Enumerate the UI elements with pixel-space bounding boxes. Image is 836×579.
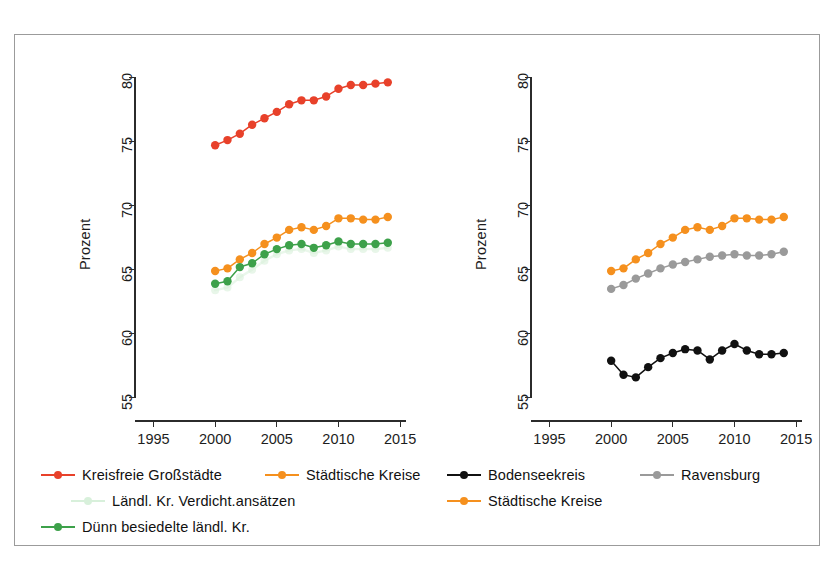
data-point — [371, 215, 379, 223]
legend-marker-icon — [447, 469, 481, 481]
data-point — [223, 277, 231, 285]
legend-item-label: Dünn besiedelte ländl. Kr. — [82, 519, 250, 535]
data-point — [260, 114, 268, 122]
data-point — [236, 255, 244, 263]
data-point — [347, 81, 355, 89]
chart-panel-left: Prozent 556065707580 1995200020052010201… — [15, 35, 425, 547]
data-point — [730, 340, 738, 348]
data-point — [632, 373, 640, 381]
data-point — [706, 253, 714, 261]
data-point — [718, 251, 726, 259]
data-point — [619, 371, 627, 379]
data-point — [656, 240, 664, 248]
data-point — [644, 249, 652, 257]
data-point — [359, 240, 367, 248]
data-point — [273, 233, 281, 241]
data-point — [669, 260, 677, 268]
figure-frame: Prozent 556065707580 1995200020052010201… — [14, 34, 820, 546]
legend-item-st-dtische-kreise[interactable]: Städtische Kreise — [447, 493, 603, 509]
data-point — [730, 250, 738, 258]
data-point — [248, 259, 256, 267]
data-point — [211, 267, 219, 275]
legend-item-ravensburg[interactable]: Ravensburg — [640, 467, 760, 483]
data-point — [780, 213, 788, 221]
data-point — [347, 240, 355, 248]
legend-item-label: Städtische Kreise — [488, 493, 603, 509]
data-point — [755, 251, 763, 259]
data-point — [780, 349, 788, 357]
data-point — [260, 240, 268, 248]
data-point — [248, 249, 256, 257]
data-point — [297, 240, 305, 248]
data-point — [619, 281, 627, 289]
data-point — [236, 263, 244, 271]
data-point — [743, 346, 751, 354]
legend-marker-icon — [447, 495, 481, 507]
legend-item-label: Kreisfreie Großstädte — [82, 467, 222, 483]
data-point — [285, 241, 293, 249]
data-point — [384, 239, 392, 247]
data-point — [297, 96, 305, 104]
data-point — [693, 346, 701, 354]
legend-item-kreisfreie-gro-st-dte[interactable]: Kreisfreie Großstädte — [41, 467, 222, 483]
legend-marker-icon — [41, 521, 75, 533]
data-point — [767, 250, 775, 258]
data-point — [310, 244, 318, 252]
legend-marker-icon — [265, 469, 299, 481]
data-point — [297, 223, 305, 231]
legend-item-label: Ländl. Kr. Verdicht.ansätzen — [112, 493, 295, 509]
data-point — [334, 85, 342, 93]
legend-item-l-ndl-kr-verdicht-ans-tzen[interactable]: Ländl. Kr. Verdicht.ansätzen — [71, 493, 295, 509]
data-point — [334, 214, 342, 222]
partial-title — [28, 0, 628, 18]
data-point — [780, 247, 788, 255]
chart-panel-right: Prozent 556065707580 1995200020052010201… — [425, 35, 821, 547]
data-point — [347, 214, 355, 222]
data-point — [260, 250, 268, 258]
data-point — [322, 241, 330, 249]
data-point — [718, 222, 726, 230]
legend-marker-icon — [71, 495, 105, 507]
data-point — [322, 92, 330, 100]
data-point — [706, 226, 714, 234]
data-point — [285, 100, 293, 108]
legend-item-st-dtische-kreise[interactable]: Städtische Kreise — [265, 467, 421, 483]
data-point — [384, 213, 392, 221]
data-point — [693, 223, 701, 231]
data-point — [681, 345, 689, 353]
legend-item-d-nn-besiedelte-l-ndl-kr-[interactable]: Dünn besiedelte ländl. Kr. — [41, 519, 250, 535]
data-point — [656, 264, 664, 272]
data-point — [681, 226, 689, 234]
data-point — [644, 269, 652, 277]
data-point — [755, 215, 763, 223]
data-point — [371, 240, 379, 248]
data-point — [384, 78, 392, 86]
data-point — [669, 233, 677, 241]
data-point — [706, 355, 714, 363]
data-point — [273, 108, 281, 116]
data-point — [322, 222, 330, 230]
data-point — [285, 226, 293, 234]
data-point — [236, 129, 244, 137]
data-point — [211, 141, 219, 149]
data-point — [669, 349, 677, 357]
legend-item-bodenseekreis[interactable]: Bodenseekreis — [447, 467, 585, 483]
legend-item-label: Städtische Kreise — [306, 467, 421, 483]
figure-stage: Prozent 556065707580 1995200020052010201… — [0, 0, 836, 579]
data-point — [767, 215, 775, 223]
data-point — [607, 267, 615, 275]
data-point — [371, 79, 379, 87]
data-point — [236, 273, 244, 281]
data-point — [273, 245, 281, 253]
data-point — [223, 136, 231, 144]
data-point — [223, 264, 231, 272]
data-point — [730, 214, 738, 222]
data-point — [644, 363, 652, 371]
legend-item-label: Ravensburg — [681, 467, 760, 483]
legend-marker-icon — [640, 469, 674, 481]
data-point — [211, 280, 219, 288]
data-point — [310, 96, 318, 104]
data-point — [656, 354, 664, 362]
legend-marker-icon — [41, 469, 75, 481]
data-point — [743, 251, 751, 259]
